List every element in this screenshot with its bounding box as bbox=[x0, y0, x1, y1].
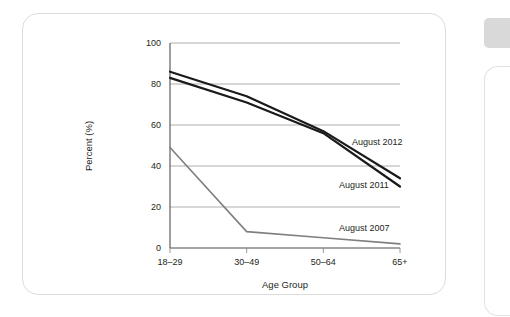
y-axis-title: Percent (%) bbox=[83, 121, 94, 171]
y-tick-labels-group: 020406080100 bbox=[146, 38, 161, 253]
x-tick-labels-group: 18–2930–4950–6465+ bbox=[157, 257, 407, 267]
x-tick-label: 65+ bbox=[392, 257, 407, 267]
x-tick-marks-group bbox=[170, 248, 400, 253]
x-tick-label: 18–29 bbox=[157, 257, 182, 267]
x-tick-label: 30–49 bbox=[234, 257, 259, 267]
series-label-august-2012: August 2012 bbox=[352, 137, 403, 147]
series-lines-group bbox=[170, 72, 400, 244]
y-tick-label: 80 bbox=[151, 79, 161, 89]
y-tick-label: 40 bbox=[151, 161, 161, 171]
y-tick-label: 60 bbox=[151, 120, 161, 130]
x-axis-title: Age Group bbox=[262, 279, 308, 290]
y-tick-label: 20 bbox=[151, 202, 161, 212]
y-tick-label: 0 bbox=[156, 243, 161, 253]
y-tick-label: 100 bbox=[146, 38, 161, 48]
series-label-august-2007: August 2007 bbox=[339, 223, 390, 233]
series-label-august-2011: August 2011 bbox=[339, 180, 389, 190]
x-tick-label: 50–64 bbox=[311, 257, 336, 267]
series-line-august-2011 bbox=[170, 78, 400, 187]
